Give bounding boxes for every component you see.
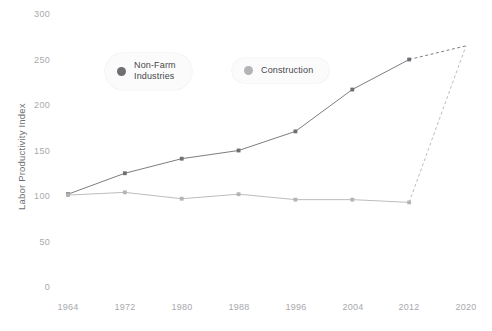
x-tick-2012: 2012 [389, 302, 429, 312]
data-point-marker[interactable] [180, 197, 184, 201]
data-point-marker[interactable] [350, 88, 354, 92]
y-tick-250: 250 [22, 55, 50, 65]
data-point-marker[interactable] [350, 198, 354, 202]
series-line-dashed-0 [409, 46, 466, 60]
x-tick-1988: 1988 [219, 302, 259, 312]
y-axis-title: Labor Productivity Index [16, 103, 27, 210]
legend-item-construction[interactable]: Construction [232, 58, 329, 83]
legend-dot-construction [244, 66, 253, 75]
legend-dot-non-farm-industries [117, 67, 126, 76]
legend-label-construction: Construction [261, 65, 313, 76]
data-point-marker[interactable] [123, 190, 127, 194]
x-tick-1972: 1972 [105, 302, 145, 312]
x-tick-1964: 1964 [48, 302, 88, 312]
legend-item-non-farm-industries[interactable]: Non-Farm Industries [105, 53, 192, 90]
data-point-marker[interactable] [237, 149, 241, 153]
x-tick-2004: 2004 [333, 302, 373, 312]
data-point-marker[interactable] [180, 157, 184, 161]
data-point-marker[interactable] [407, 58, 411, 62]
chart-container: 300 250 200 150 100 50 0 1964 1972 1980 … [0, 0, 492, 331]
legend-label-non-farm-industries: Non-Farm Industries [134, 60, 176, 83]
data-point-marker[interactable] [294, 198, 298, 202]
x-tick-1980: 1980 [162, 302, 202, 312]
data-point-marker[interactable] [237, 192, 241, 196]
y-tick-50: 50 [22, 237, 50, 247]
data-point-marker[interactable] [66, 193, 70, 197]
chart-plot-area [0, 0, 492, 331]
data-point-marker[interactable] [123, 171, 127, 175]
y-tick-0: 0 [22, 282, 50, 292]
x-tick-2020: 2020 [446, 302, 486, 312]
x-tick-1996: 1996 [276, 302, 316, 312]
series-line-dashed-1 [409, 46, 466, 203]
y-tick-300: 300 [22, 9, 50, 19]
data-point-marker[interactable] [294, 129, 298, 133]
data-point-marker[interactable] [407, 200, 411, 204]
